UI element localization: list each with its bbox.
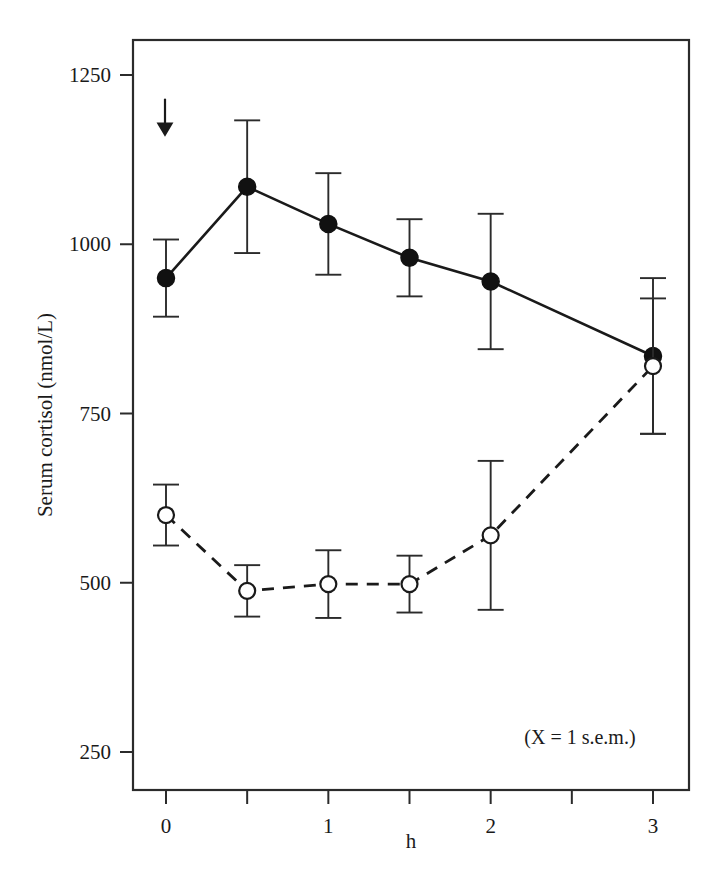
dose-arrow-head [159,124,172,135]
data-point-filled [482,273,499,290]
annotation-layer: (X = 1 s.e.m.) [159,99,636,749]
x-tick-label: 1 [323,814,334,838]
data-point-filled [239,178,256,195]
chart-figure: 25050075010001250 0123 (X = 1 s.e.m.) Se… [0,0,726,877]
serum-cortisol-line-chart: 25050075010001250 0123 (X = 1 s.e.m.) Se… [0,0,726,877]
data-point-open [158,507,174,523]
y-axis-ticks [120,75,133,752]
data-point-filled [401,249,418,266]
data-point-open [239,583,255,599]
x-axis-ticks [166,790,653,804]
data-point-open [645,358,661,374]
dose-arrow-icon [159,99,172,135]
data-point-filled [158,270,175,287]
data-point-open [320,576,336,592]
y-tick-label: 1250 [69,63,111,87]
y-axis-tick-labels: 25050075010001250 [69,63,111,764]
x-tick-label: 3 [648,814,659,838]
series-open-circles [153,298,666,618]
series-filled-circles [153,120,666,433]
data-point-open [402,576,418,592]
x-tick-label: 2 [485,814,496,838]
y-tick-label: 750 [80,402,112,426]
data-series-layer [153,120,666,618]
y-tick-label: 500 [80,571,112,595]
data-point-open [483,527,499,543]
x-axis-title: h [406,829,417,853]
x-tick-label: 0 [161,814,172,838]
sem-note: (X = 1 s.e.m.) [524,726,635,749]
data-point-filled [320,215,337,232]
y-axis-title: Serum cortisol (nmol/L) [33,313,57,517]
y-tick-label: 1000 [69,232,111,256]
y-tick-label: 250 [80,740,112,764]
